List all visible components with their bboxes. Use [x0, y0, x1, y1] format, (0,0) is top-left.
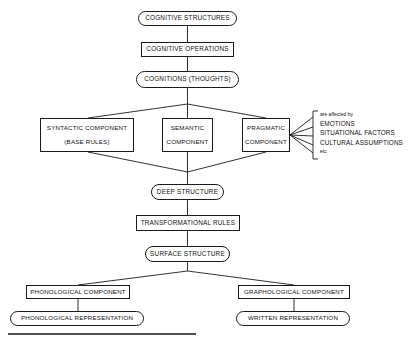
wire-fork2-to-phonological	[78, 271, 188, 285]
node-label: COGNITIVE STRUCTURES	[145, 15, 230, 22]
node-label: TRANSFORMATIONAL RULES	[141, 220, 236, 227]
wire-fork-to-syntactic	[88, 104, 188, 118]
node-label: SYNTACTIC COMPONENT	[47, 125, 127, 132]
node-label: PHONOLOGICAL REPRESENTATION	[21, 315, 133, 322]
wire-fork-to-pragmatic	[188, 104, 267, 118]
node-surface-structure[interactable]: SURFACE STRUCTURE	[145, 246, 230, 262]
annotation-bracket	[313, 111, 318, 159]
annotation-item-cultural-assumptions: CULTURAL ASSUMPTIONS	[320, 138, 403, 147]
node-label: SURFACE STRUCTURE	[150, 251, 225, 258]
wire-annotation-fan-1	[290, 117, 313, 135]
node-label: PHONOLOGICAL COMPONENT	[30, 289, 126, 296]
node-graphological-component[interactable]: GRAPHOLOGICAL COMPONENT	[238, 285, 350, 299]
node-phonological-representation[interactable]: PHONOLOGICAL REPRESENTATION	[10, 311, 144, 326]
node-syntactic-component[interactable]: SYNTACTIC COMPONENT (BASE RULES)	[40, 118, 134, 152]
node-cognitive-operations[interactable]: COGNITIVE OPERATIONS	[141, 42, 234, 57]
node-semantic-component[interactable]: SEMANTIC COMPONENT	[162, 118, 213, 152]
node-written-representation[interactable]: WRITTEN REPRESENTATION	[236, 311, 350, 326]
node-label: WRITTEN REPRESENTATION	[248, 315, 338, 322]
node-label: SEMANTIC	[171, 125, 205, 132]
annotation-item-etc: etc	[320, 147, 403, 156]
node-phonological-component[interactable]: PHONOLOGICAL COMPONENT	[26, 285, 130, 299]
node-cognitive-structures[interactable]: COGNITIVE STRUCTURES	[138, 11, 237, 26]
node-label: COGNITIONS (THOUGHTS)	[144, 76, 231, 83]
node-pragmatic-component[interactable]: PRAGMATIC COMPONENT	[242, 118, 290, 152]
node-label: DEEP STRUCTURE	[157, 189, 218, 196]
wire-annotation-fan-2	[290, 127, 313, 135]
wire-annotation-fan-5	[290, 135, 313, 153]
annotation-item-emotions: EMOTIONS	[320, 119, 403, 128]
node-transformational-rules[interactable]: TRANSFORMATIONAL RULES	[136, 215, 240, 231]
wire-fork2-to-graphological	[188, 271, 295, 285]
wire-annotation-fan-3	[290, 135, 313, 136]
node-label: GRAPHOLOGICAL COMPONENT	[244, 289, 344, 296]
wire-pragmatic-to-merge	[188, 152, 267, 172]
node-label: COGNITIVE OPERATIONS	[146, 46, 228, 53]
annotation-intro: are affected by	[320, 110, 403, 119]
node-label-2: COMPONENT	[166, 139, 208, 146]
node-label: PRAGMATIC	[247, 125, 285, 132]
wire-syntactic-to-merge	[88, 152, 188, 172]
node-label-2: COMPONENT	[245, 139, 287, 146]
pragmatic-influences-annotation: are affected by EMOTIONS SITUATIONAL FAC…	[320, 110, 403, 156]
flowchart-diagram: COGNITIVE STRUCTURES COGNITIVE OPERATION…	[0, 0, 411, 343]
node-sublabel: (BASE RULES)	[64, 139, 109, 146]
node-deep-structure[interactable]: DEEP STRUCTURE	[151, 184, 224, 200]
annotation-item-situational-factors: SITUATIONAL FACTORS	[320, 128, 403, 137]
node-cognitions[interactable]: COGNITIONS (THOUGHTS)	[136, 71, 239, 88]
